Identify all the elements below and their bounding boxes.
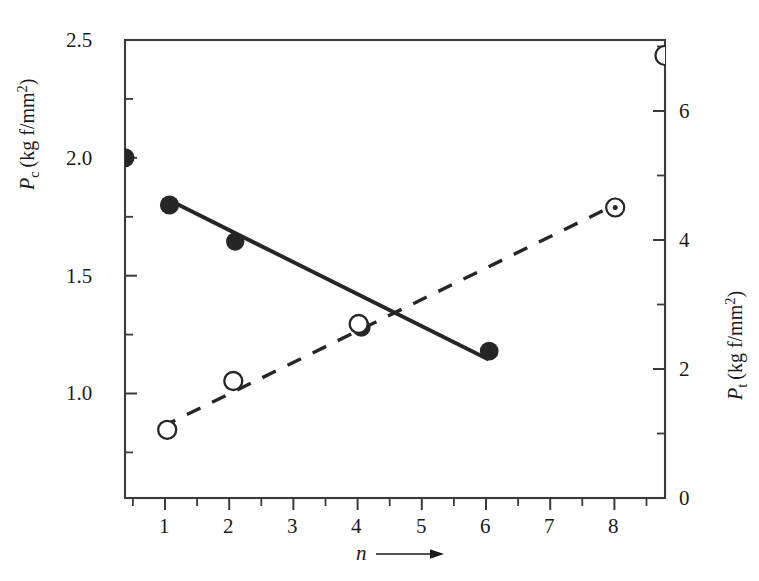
left-axis-tick-label: 2.0 [66, 148, 92, 169]
chart-figure: 2.5 2.0 1.5 1.0 6 4 2 0 1 2 3 4 5 6 7 8 … [0, 0, 759, 581]
data-point-open-circle-clipped [656, 46, 675, 65]
right-axis-tick-label: 2 [679, 359, 690, 380]
right-axis-title: Pt (kg f/mm2) [722, 170, 751, 400]
data-point-filled-circle [116, 148, 135, 167]
bottom-axis-tick-label: 7 [544, 516, 555, 537]
series-pc-trend-line [170, 200, 489, 359]
bottom-axis-tick-label: 4 [351, 516, 362, 537]
right-axis-title-var: P [724, 388, 746, 400]
bottom-axis-title: n [356, 541, 446, 566]
data-point-filled-circle [160, 195, 179, 214]
left-axis-title-subscript: c [26, 171, 42, 177]
data-point-dotted-circle [606, 199, 624, 217]
data-point-open-circle [224, 372, 242, 390]
bottom-axis-tick-label: 3 [287, 516, 298, 537]
left-axis-title-units: (kg f/mm [16, 92, 38, 167]
right-arrow-icon [374, 546, 446, 562]
bottom-axis-minor-ticks [133, 498, 647, 506]
right-axis-title-exponent: 2 [722, 298, 738, 305]
bottom-axis-tick-label: 1 [159, 516, 170, 537]
right-axis-title-subscript: t [734, 384, 750, 388]
series-pc-markers [116, 148, 499, 360]
left-axis-title-exponent: 2 [14, 85, 30, 92]
left-axis-tick-label: 1.0 [66, 383, 92, 404]
data-point-open-circle [350, 315, 368, 333]
left-axis-title-var: P [16, 178, 38, 190]
plot-frame [125, 40, 665, 498]
right-axis-tick-label: 6 [679, 101, 690, 122]
bottom-axis-tick-label: 8 [608, 516, 619, 537]
right-axis-title-close: ) [724, 291, 746, 298]
plot-canvas [0, 0, 759, 581]
right-axis-tick-label: 0 [679, 488, 690, 509]
right-axis-tick-label: 4 [679, 230, 690, 251]
left-axis-title-close: ) [16, 79, 38, 86]
bottom-axis-tick-label: 6 [480, 516, 491, 537]
data-point-filled-circle [480, 342, 499, 361]
left-axis-title: Pc (kg f/mm2) [14, 0, 43, 190]
data-point-open-circle [158, 421, 176, 439]
left-axis-tick-label: 1.5 [66, 266, 92, 287]
bottom-axis-tick-label: 5 [416, 516, 427, 537]
bottom-axis-tick-label: 2 [223, 516, 234, 537]
left-axis-tick-label: 2.5 [66, 30, 92, 51]
right-axis-title-units: (kg f/mm [724, 305, 746, 380]
bottom-axis-title-var: n [356, 541, 367, 566]
data-point-filled-circle [226, 232, 244, 250]
